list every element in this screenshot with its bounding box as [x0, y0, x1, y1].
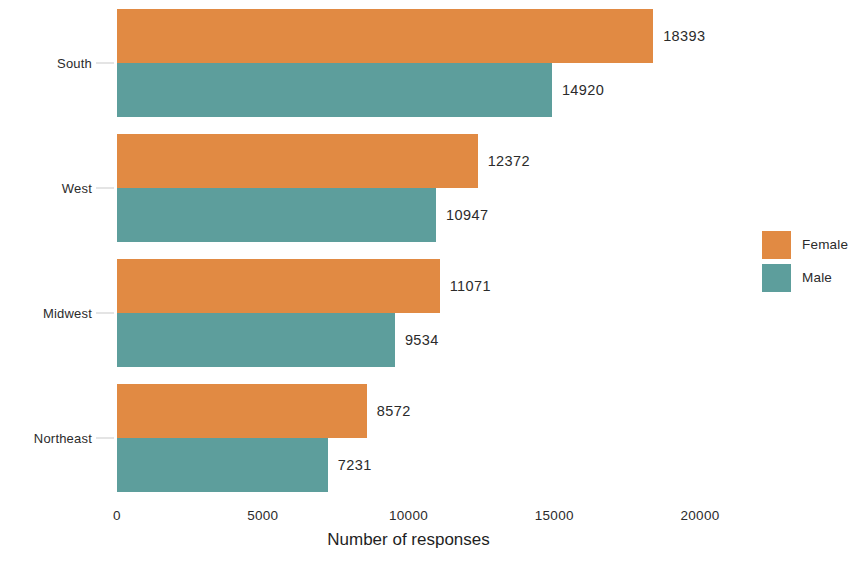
category-tick — [96, 187, 114, 188]
bar-row: 18393 — [117, 9, 700, 63]
legend-item-female[interactable]: Female — [762, 228, 848, 261]
bar-value-label: 11071 — [450, 278, 491, 294]
bar-group: 1237210947 — [117, 134, 700, 242]
x-tick-label-15000: 15000 — [535, 508, 574, 523]
bar-female-south[interactable] — [117, 9, 653, 63]
category-label-midwest: Midwest — [43, 305, 92, 320]
bar-male-south[interactable] — [117, 63, 552, 117]
legend-swatch-female-icon — [762, 231, 791, 259]
bar-row: 14920 — [117, 63, 700, 117]
bar-row: 12372 — [117, 134, 700, 188]
legend-swatch-male-icon — [762, 264, 791, 292]
bar-male-west[interactable] — [117, 188, 436, 242]
legend-label: Female — [802, 237, 848, 252]
plot-area: 1839314920123721094711071953485727231 — [117, 0, 700, 500]
x-tick-label-10000: 10000 — [389, 508, 428, 523]
legend: FemaleMale — [762, 228, 848, 294]
legend-item-male[interactable]: Male — [762, 261, 848, 294]
bar-value-label: 9534 — [405, 332, 439, 348]
bar-value-label: 8572 — [377, 403, 411, 419]
bar-value-label: 10947 — [446, 207, 488, 223]
bar-female-northeast[interactable] — [117, 384, 367, 438]
value-axis: Number of responses 05000100001500020000 — [117, 500, 700, 562]
x-tick-label-20000: 20000 — [680, 508, 719, 523]
bar-value-label: 14920 — [562, 82, 604, 98]
bar-female-midwest[interactable] — [117, 259, 440, 313]
bar-group: 1839314920 — [117, 9, 700, 117]
bar-chart-figure: SouthWestMidwestNortheast 18393149201237… — [0, 0, 867, 562]
category-label-northeast: Northeast — [34, 430, 92, 445]
legend-label: Male — [802, 270, 832, 285]
category-tick — [96, 437, 114, 438]
x-tick-label-0: 0 — [113, 508, 121, 523]
category-axis: SouthWestMidwestNortheast — [0, 0, 92, 500]
x-tick-label-5000: 5000 — [247, 508, 278, 523]
bar-value-label: 12372 — [488, 153, 530, 169]
category-label-west: West — [62, 180, 92, 195]
category-tick — [96, 312, 114, 313]
bar-row: 9534 — [117, 313, 700, 367]
bar-row: 10947 — [117, 188, 700, 242]
bar-group: 85727231 — [117, 384, 700, 492]
bar-female-west[interactable] — [117, 134, 478, 188]
bar-group: 110719534 — [117, 259, 700, 367]
category-label-south: South — [57, 55, 92, 70]
x-axis-title: Number of responses — [117, 530, 700, 550]
bar-value-label: 7231 — [338, 457, 372, 473]
bar-row: 11071 — [117, 259, 700, 313]
bar-row: 7231 — [117, 438, 700, 492]
bar-row: 8572 — [117, 384, 700, 438]
bar-male-northeast[interactable] — [117, 438, 328, 492]
bar-value-label: 18393 — [663, 28, 705, 44]
category-tick — [96, 62, 114, 63]
bar-male-midwest[interactable] — [117, 313, 395, 367]
